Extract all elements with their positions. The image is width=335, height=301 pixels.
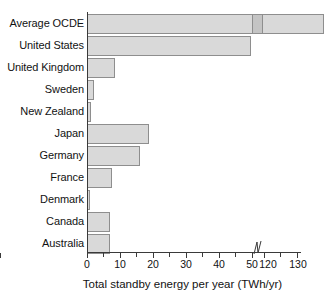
category-label-average-ocde: Average OCDE [10,18,84,29]
x-axis-title: Total standby energy per year (TWh/yr) [0,278,335,291]
bar-france [87,168,112,188]
x-tick-10 [0,253,1,258]
x-tick-15 [136,253,137,257]
bar-germany [87,146,140,166]
x-tick-label-0: 0 [84,259,90,270]
y-axis-line [87,12,88,253]
bar-canada [87,212,110,232]
category-label-canada: Canada [46,216,84,227]
x-tick-label-130: 130 [289,259,307,270]
category-label-australia: Australia [42,238,84,249]
x-tick-label-40: 40 [213,259,225,270]
bar-united-kingdom [87,58,115,78]
bar-japan [87,124,149,144]
x-tick-125 [280,253,281,257]
x-tick-label-120: 120 [259,259,277,270]
x-tick-label-50: 50 [246,259,258,270]
axis-break-icon [250,240,264,255]
x-tick-5 [103,253,104,257]
x-tick-25 [169,253,170,257]
category-label-united-states: United States [19,40,84,51]
category-label-france: France [50,172,84,183]
bar-sweden [87,80,94,100]
x-tick-45 [235,253,236,257]
category-label-japan: Japan [55,128,84,139]
x-tick-label-20: 20 [147,259,159,270]
category-label-united-kingdom: United Kingdom [7,62,84,73]
category-label-sweden: Sweden [45,84,84,95]
category-label-denmark: Denmark [40,194,84,205]
category-label-new-zealand: New Zealand [20,106,84,117]
category-label-germany: Germany [39,150,84,161]
x-tick-label-10: 10 [114,259,126,270]
bar-average-ocde-lower [87,14,253,34]
x-tick-35 [202,253,203,257]
bar-united-states [87,36,251,56]
bar-australia [87,234,110,254]
bar-chart: Average OCDE United States United Kingdo… [0,0,335,301]
x-tick-label-30: 30 [180,259,192,270]
bar-average-ocde-upper [262,14,324,34]
